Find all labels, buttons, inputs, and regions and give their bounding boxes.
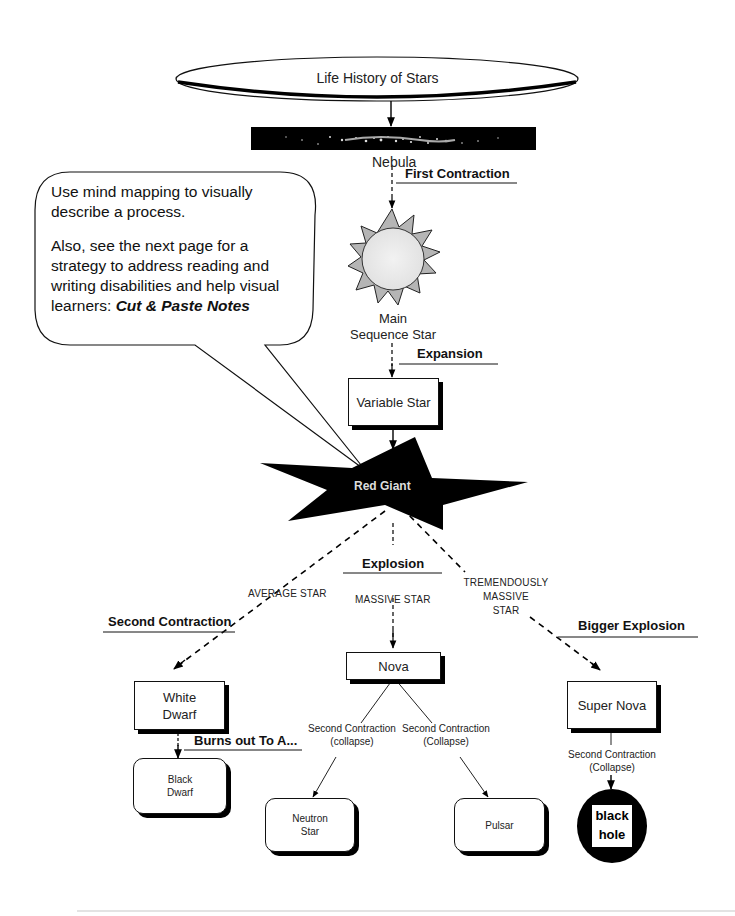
- label-tremendously-massive-star: TREMENDOUSLY MASSIVE STAR: [451, 576, 561, 618]
- edge-label-nova-left: Second Contraction (collapse): [304, 722, 400, 748]
- callout-text: Use mind mapping to visually describe a …: [51, 182, 279, 316]
- label-burns-out: Burns out To A...: [194, 733, 297, 748]
- label-bigger-explosion: Bigger Explosion: [578, 618, 685, 633]
- label-first-contraction: First Contraction: [405, 166, 510, 181]
- label-average-star: AVERAGE STAR: [248, 588, 327, 599]
- cut-paste-notes-emphasis: Cut & Paste Notes: [116, 297, 250, 314]
- node-neutron-star: Neutron Star: [265, 798, 355, 852]
- nebula-image: [251, 127, 536, 150]
- node-white-dwarf: White Dwarf: [134, 681, 225, 730]
- node-variable-star: Variable Star: [348, 378, 439, 426]
- node-main-sequence-label: Main Sequence Star: [343, 311, 443, 343]
- nova-edge-right: [395, 679, 432, 723]
- node-nova: Nova: [346, 652, 441, 680]
- node-red-giant-label: Red Giant: [354, 479, 411, 493]
- label-second-contraction: Second Contraction: [108, 614, 232, 629]
- diagram-title: Life History of Stars: [0, 70, 735, 86]
- node-super-nova: Super Nova: [567, 681, 657, 729]
- label-expansion: Expansion: [417, 346, 483, 361]
- edge-label-nova-right: Second Contraction (Collapse): [398, 722, 494, 748]
- node-black-dwarf: Black Dwarf: [133, 758, 227, 814]
- diagram-canvas: [0, 0, 735, 916]
- node-pulsar: Pulsar: [454, 798, 545, 852]
- label-explosion: Explosion: [362, 556, 424, 571]
- node-black-hole-label: black hole: [592, 806, 632, 844]
- main-sequence-star-icon: [348, 209, 440, 305]
- label-massive-star: MASSIVE STAR: [355, 594, 431, 605]
- nova-edge-left: [361, 679, 393, 723]
- edge-label-super-nova: Second Contraction (Collapse): [562, 748, 662, 774]
